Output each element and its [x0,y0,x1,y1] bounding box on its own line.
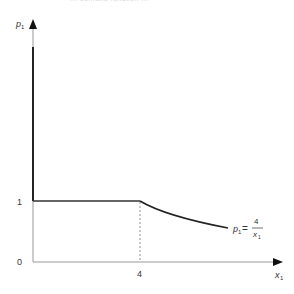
y-axis-subscript: 1 [21,24,25,30]
y-axis-arrow-icon [29,19,37,29]
x-axis-arrow-icon [273,258,283,266]
tick-label-4: 4 [137,269,142,279]
x-axis-subscript: 1 [280,275,284,281]
hyperbola-curve [140,201,228,228]
curve-label-denominator-sub: 1 [258,234,261,240]
demand-diagram: p 1 1 0 4 x 1 p 1 = 4 x 1 [0,0,294,294]
tick-label-1: 1 [17,197,22,207]
curve-label-equals: = [242,223,248,234]
tick-label-0: 0 [17,257,22,267]
curve-label-numerator: 4 [254,217,259,226]
